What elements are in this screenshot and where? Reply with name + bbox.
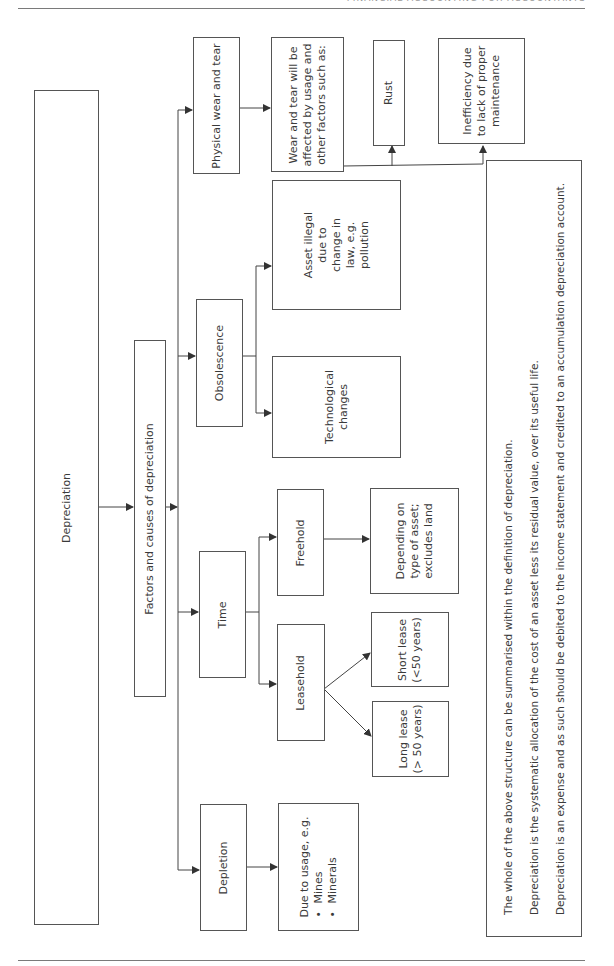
short-lease-text: Short lease (<50 years)	[396, 617, 424, 683]
asset-illegal-line: Asset illegal	[302, 212, 316, 278]
freehold-box: Freehold	[277, 489, 324, 596]
rust-label: Rust	[382, 81, 396, 105]
leasehold-label: Leasehold	[294, 655, 308, 711]
wear-detail-text: Wear and tear will be affected by usage …	[287, 43, 329, 166]
obsolescence-box: Obsolescence	[196, 299, 243, 427]
short-lease-line: Short lease	[396, 617, 410, 683]
wear-detail-line: other factors such as:	[315, 43, 329, 166]
depreciation-root-box: Depreciation	[34, 90, 99, 925]
depletion-box: Depletion	[200, 804, 247, 931]
footer-rule	[18, 960, 585, 961]
asset-illegal-box: Asset illegal due to change in law, e.g.…	[272, 180, 401, 310]
depletion-detail-box: Due to usage, e.g. Mines Minerals	[278, 803, 359, 931]
short-lease-box: Short lease (<50 years)	[371, 612, 449, 687]
asset-illegal-text: Asset illegal due to change in law, e.g.…	[302, 212, 372, 278]
asset-illegal-line: law, e.g.	[344, 212, 358, 278]
asset-illegal-line: change in	[330, 212, 344, 278]
depletion-bullet-text: Minerals	[326, 857, 339, 903]
wear-detail-box: Wear and tear will be affected by usage …	[271, 37, 344, 172]
depreciation-root-label: Depreciation	[60, 472, 74, 542]
inefficiency-line: maintenance	[489, 46, 503, 137]
technological-line: Technological	[323, 370, 337, 444]
physical-wear-box: Physical wear and tear	[193, 37, 240, 174]
time-label: Time	[216, 601, 230, 628]
freehold-label: Freehold	[294, 519, 308, 566]
freehold-detail-line: excludes land	[422, 502, 436, 579]
long-lease-box: Long lease (> 50 years)	[372, 701, 449, 777]
depletion-label: Depletion	[217, 841, 231, 894]
running-header: FINANCIAL ACCOUNTING FOR ACCOUNTANTS	[347, 0, 586, 3]
technological-text: Technological changes	[323, 370, 351, 444]
freehold-detail-box: Depending on type of asset; excludes lan…	[370, 488, 459, 594]
asset-illegal-line: pollution	[358, 212, 372, 278]
summary-line: Depreciation is the systematic allocatio…	[527, 182, 541, 914]
summary-line: Depreciation is an expense and as such s…	[553, 182, 567, 914]
factors-box: Factors and causes of depreciation	[134, 340, 166, 697]
depletion-intro: Due to usage, e.g.	[298, 816, 312, 917]
header-rule	[18, 8, 585, 9]
freehold-detail-text: Depending on type of asset; excludes lan…	[394, 502, 436, 579]
inefficiency-text: Inefficiency due to lack of proper maint…	[461, 46, 503, 137]
short-lease-line: (<50 years)	[410, 617, 424, 683]
technological-box: Technological changes	[272, 356, 401, 458]
long-lease-line: Long lease	[397, 704, 411, 773]
time-box: Time	[199, 551, 246, 678]
inefficiency-line: to lack of proper	[475, 46, 489, 137]
freehold-detail-line: Depending on	[394, 502, 408, 579]
freehold-detail-line: type of asset;	[408, 502, 422, 579]
asset-illegal-line: due to	[316, 212, 330, 278]
factors-label: Factors and causes of depreciation	[143, 423, 157, 614]
technological-line: changes	[337, 370, 351, 444]
inefficiency-line: Inefficiency due	[461, 46, 475, 137]
depletion-detail-text: Due to usage, e.g. Mines Minerals	[298, 816, 340, 917]
depletion-bullet-text: Mines	[312, 872, 325, 904]
physical-wear-label: Physical wear and tear	[210, 43, 224, 168]
wear-detail-line: affected by usage and	[301, 43, 315, 166]
summary-box: The whole of the above structure can be …	[486, 160, 582, 937]
obsolescence-label: Obsolescence	[213, 325, 227, 401]
summary-line: The whole of the above structure can be …	[501, 182, 515, 914]
long-lease-line: (> 50 years)	[411, 704, 425, 773]
wear-detail-line: Wear and tear will be	[287, 43, 301, 166]
depletion-bullet-item: Minerals	[326, 816, 340, 917]
rust-box: Rust	[373, 40, 405, 146]
depletion-bullet-item: Mines	[312, 816, 326, 917]
leasehold-box: Leasehold	[277, 624, 325, 741]
inefficiency-box: Inefficiency due to lack of proper maint…	[438, 38, 525, 144]
summary-text: The whole of the above structure can be …	[501, 182, 567, 914]
long-lease-text: Long lease (> 50 years)	[397, 704, 425, 773]
